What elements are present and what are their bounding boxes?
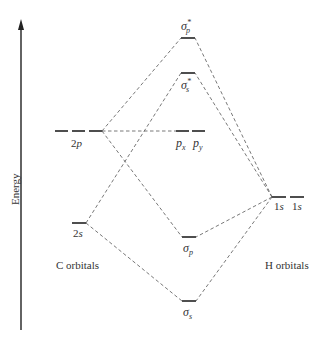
energy-axis-label: Energy [9, 173, 21, 205]
label-sigma-s: σs [183, 306, 192, 318]
correlation-lines [86, 38, 272, 301]
label-sigma-p-star: σ*p [181, 20, 190, 32]
label-sigma-p: σp [183, 242, 193, 254]
label-c2p: 2p [71, 138, 82, 149]
s-subscript: s [186, 85, 189, 94]
label-sigma-s-star: σ*s [181, 79, 189, 91]
group-label-c-orbitals: C orbitals [56, 259, 99, 271]
label-c2s: 2s [73, 228, 83, 239]
label-c2s-letter: s [79, 227, 83, 239]
x-subscript: x [182, 143, 186, 152]
mo-diagram-canvas [0, 0, 322, 345]
label-c2p-letter: p [77, 137, 83, 149]
group-label-h-orbitals: H orbitals [265, 259, 309, 271]
label-py: py [193, 137, 203, 149]
y-subscript: y [199, 143, 203, 152]
label-h1s-a-letter: s [280, 200, 284, 212]
label-h1s-b-letter: s [298, 200, 302, 212]
arrow-up-icon [18, 19, 24, 30]
p-subscript: p [186, 26, 190, 35]
label-h1s-a: 1s [274, 201, 284, 212]
s-subscript: s [189, 312, 192, 321]
label-h1s-b: 1s [292, 201, 302, 212]
label-px: px [176, 137, 186, 149]
p-subscript: p [189, 248, 193, 257]
